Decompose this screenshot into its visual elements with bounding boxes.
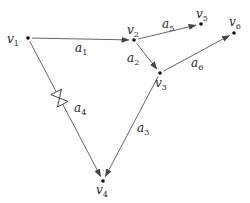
node-dot-v6 — [232, 31, 236, 35]
arrow-a4 — [30, 42, 101, 177]
edge-label-a6: a6 — [191, 56, 203, 72]
node-label-v2: v2 — [127, 23, 139, 39]
arrow-a3 — [105, 77, 158, 177]
edge-label-a2: a2 — [127, 51, 139, 67]
edge-label-a1: a1 — [75, 41, 87, 57]
edges — [30, 25, 230, 176]
node-label-v5: v5 — [196, 7, 208, 23]
node-label-v3: v3 — [155, 76, 167, 92]
node-label-v1: v1 — [7, 32, 19, 48]
edge-label-a5: a5 — [162, 17, 174, 33]
edge-label-a4: a4 — [74, 101, 86, 117]
labels: a1a2a3a4a5a6v1v2v3v4v5v6 — [7, 7, 241, 199]
node-label-v4: v4 — [96, 183, 108, 199]
edge-a3 — [105, 77, 158, 177]
node-label-v6: v6 — [229, 15, 241, 31]
bowtie-icon — [51, 89, 68, 107]
edge-a2 — [136, 43, 156, 69]
arrow-a2 — [136, 43, 156, 69]
node-dot-v1 — [26, 36, 30, 40]
arrow-a1 — [32, 38, 129, 40]
node-dot-v3 — [158, 71, 162, 75]
edge-a4 — [30, 42, 101, 177]
edge-label-a3: a3 — [137, 121, 149, 137]
edge-a1 — [32, 38, 129, 40]
nodes — [26, 22, 236, 183]
graph-canvas: a1a2a3a4a5a6v1v2v3v4v5v6 — [0, 0, 250, 203]
